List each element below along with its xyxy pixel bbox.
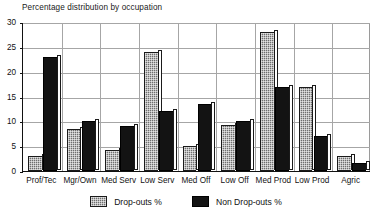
bar-group [100,23,139,171]
bar-non-dropouts [314,136,328,171]
legend-item[interactable]: Drop-outs % [90,196,162,207]
bar-non-dropouts [120,126,134,171]
y-tick-label: 0 [0,168,16,176]
x-tick-label: Low Prod [293,176,332,185]
y-tick-label: 15 [0,94,16,102]
x-tick-label: Mgr/Own [61,176,100,185]
y-tick-label: 10 [0,118,16,126]
bar-group [178,23,217,171]
bar-dropouts [337,156,351,171]
bar-non-dropouts [198,104,212,171]
legend-swatch [192,196,209,207]
bar-non-dropouts [43,57,57,171]
bar-side-face [173,109,177,170]
y-tick-label: 5 [0,143,16,151]
y-tick-label: 30 [0,19,16,27]
bar-side-face [57,55,61,170]
x-tick-label: Med Prod [254,176,293,185]
bar-dropouts [144,52,158,171]
bar-non-dropouts [159,111,173,171]
bar-group [62,23,101,171]
bar-side-face [327,134,331,170]
x-tick-label: Low Off [215,176,254,185]
bar-group [139,23,178,171]
legend-label: Non Drop-outs % [216,197,282,207]
bar-group [23,23,62,171]
y-tick-label: 25 [0,44,16,52]
legend-label: Drop-outs % [114,197,162,207]
bar-dropouts [221,125,235,171]
plot-area [22,23,370,172]
x-tick-label: Med Serv [99,176,138,185]
legend-swatch [90,196,107,207]
chart-title: Percentage distribution by occupation [22,3,162,12]
bar-dropouts [67,129,81,171]
bar-side-face [250,119,254,170]
bar-dropouts [105,150,119,171]
legend-item[interactable]: Non Drop-outs % [192,196,282,207]
bar-chart: Percentage distribution by occupation 05… [0,0,372,223]
bar-non-dropouts [236,121,250,171]
bar-non-dropouts [82,121,96,171]
bar-side-face [289,85,293,170]
bar-side-face [211,102,215,170]
chart-legend: Drop-outs %Non Drop-outs % [0,196,372,207]
bar-group [255,23,294,171]
y-tick-mark [20,172,23,173]
y-tick-label: 20 [0,69,16,77]
bar-dropouts [183,146,197,171]
bar-group [294,23,333,171]
bar-side-face [366,161,370,170]
x-tick-label: Low Serv [138,176,177,185]
x-tick-label: Prof/Tec [22,176,61,185]
bar-group [216,23,255,171]
bar-dropouts [299,87,313,171]
bar-side-face [95,119,99,170]
bar-dropouts [28,156,42,171]
bar-non-dropouts [275,87,289,171]
bar-group [332,23,371,171]
bar-side-face [134,124,138,170]
bar-non-dropouts [352,163,366,171]
bar-dropouts [260,32,274,171]
x-tick-label: Agric [331,176,370,185]
x-tick-label: Med Off [177,176,216,185]
